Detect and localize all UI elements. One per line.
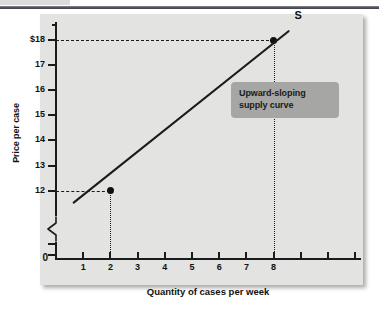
origin-zero-label: 0 <box>30 252 48 263</box>
callout-box: Upward-sloping supply curve <box>231 82 339 118</box>
callout-line-2: supply curve <box>239 100 331 112</box>
supply-curve-label: S <box>295 9 302 21</box>
x-axis-title: Quantity of cases per week <box>55 286 361 297</box>
callout-line-1: Upward-sloping <box>239 88 331 100</box>
y-axis-title: Price per case <box>11 93 21 173</box>
supply-curve-svg <box>0 0 379 314</box>
